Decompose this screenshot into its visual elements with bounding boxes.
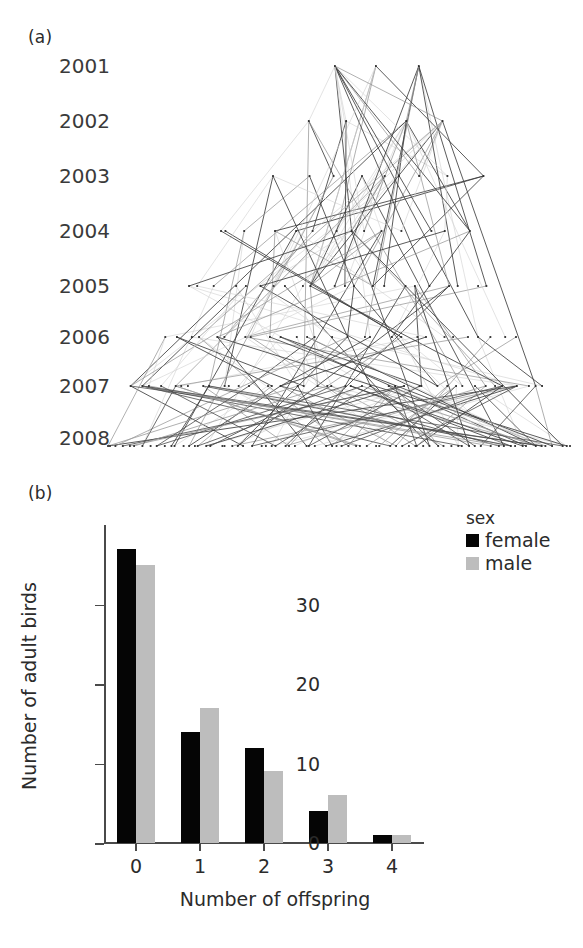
pedigree-network-svg bbox=[104, 60, 574, 452]
y-tick-0 bbox=[95, 843, 104, 845]
year-tick-2001: 2001 bbox=[59, 54, 110, 78]
network-node bbox=[442, 120, 444, 122]
legend-item-male[interactable]: male bbox=[466, 552, 551, 575]
network-node bbox=[416, 445, 418, 447]
network-node bbox=[525, 445, 527, 447]
network-node bbox=[498, 445, 500, 447]
network-node bbox=[130, 385, 132, 387]
network-node bbox=[446, 385, 448, 387]
network-node bbox=[510, 445, 512, 447]
x-tick-3 bbox=[327, 843, 329, 851]
network-node bbox=[231, 445, 233, 447]
network-node bbox=[383, 285, 385, 287]
network-edge bbox=[443, 121, 536, 386]
network-edge bbox=[142, 286, 246, 386]
network-node bbox=[150, 445, 152, 447]
network-node bbox=[260, 285, 262, 287]
network-node bbox=[194, 445, 196, 447]
y-tick-20 bbox=[95, 684, 104, 686]
network-node bbox=[225, 230, 227, 232]
network-node bbox=[228, 385, 230, 387]
network-node bbox=[451, 445, 453, 447]
x-tick-0 bbox=[135, 843, 137, 851]
network-node bbox=[541, 445, 543, 447]
network-node bbox=[401, 445, 403, 447]
network-node bbox=[224, 336, 226, 338]
network-node bbox=[437, 445, 439, 447]
network-edge bbox=[197, 176, 273, 286]
panel-b-barchart: (b) Number of adult birds Number of offs… bbox=[0, 470, 583, 948]
network-node bbox=[288, 445, 290, 447]
network-edge bbox=[131, 121, 407, 386]
network-edge bbox=[217, 231, 470, 337]
network-node bbox=[317, 385, 319, 387]
network-node bbox=[187, 385, 189, 387]
network-node bbox=[133, 445, 135, 447]
network-node bbox=[551, 445, 553, 447]
panel-a-label: (a) bbox=[28, 27, 52, 47]
network-node bbox=[174, 445, 176, 447]
bar-male-1[interactable] bbox=[200, 708, 219, 843]
network-node bbox=[361, 385, 363, 387]
network-node bbox=[309, 285, 311, 287]
network-edge bbox=[161, 386, 275, 446]
network-node bbox=[350, 385, 352, 387]
network-edge bbox=[313, 121, 443, 231]
year-tick-2007: 2007 bbox=[59, 374, 110, 398]
network-node bbox=[391, 336, 393, 338]
network-node bbox=[308, 445, 310, 447]
network-node bbox=[250, 336, 252, 338]
network-node bbox=[444, 230, 446, 232]
x-tick-label-3: 3 bbox=[322, 855, 334, 877]
x-tick-1 bbox=[199, 843, 201, 851]
legend-item-female[interactable]: female bbox=[466, 529, 551, 552]
network-node bbox=[461, 445, 463, 447]
bar-female-0[interactable] bbox=[117, 549, 136, 843]
bar-female-2[interactable] bbox=[245, 748, 264, 843]
network-edge bbox=[419, 66, 478, 337]
network-edge bbox=[221, 121, 309, 231]
network-node bbox=[469, 230, 471, 232]
network-node bbox=[422, 445, 424, 447]
network-edge bbox=[392, 231, 445, 337]
network-node bbox=[244, 336, 246, 338]
network-edge bbox=[224, 121, 442, 337]
network-edge bbox=[189, 286, 371, 386]
network-node bbox=[437, 385, 439, 387]
network-node bbox=[115, 445, 117, 447]
network-node bbox=[417, 336, 419, 338]
network-node bbox=[188, 285, 190, 287]
network-node bbox=[188, 445, 190, 447]
network-edge bbox=[251, 286, 487, 337]
network-edge bbox=[203, 386, 289, 446]
network-node bbox=[369, 336, 371, 338]
y-axis-line bbox=[104, 525, 106, 843]
network-node bbox=[285, 445, 287, 447]
network-node bbox=[183, 445, 185, 447]
network-node bbox=[501, 385, 503, 387]
network-node bbox=[366, 445, 368, 447]
network-node bbox=[180, 385, 182, 387]
network-node bbox=[562, 445, 564, 447]
network-node bbox=[269, 336, 271, 338]
bar-male-0[interactable] bbox=[136, 565, 155, 843]
network-node bbox=[398, 175, 400, 177]
bar-female-4[interactable] bbox=[373, 835, 392, 843]
network-node bbox=[222, 445, 224, 447]
year-tick-2006: 2006 bbox=[59, 325, 110, 349]
network-node bbox=[477, 336, 479, 338]
network-node bbox=[271, 445, 273, 447]
network-node bbox=[142, 445, 144, 447]
legend-label-female: female bbox=[485, 531, 551, 550]
network-node bbox=[381, 230, 383, 232]
network-node bbox=[274, 230, 276, 232]
network-edge bbox=[131, 231, 382, 386]
network-node bbox=[359, 445, 361, 447]
bar-male-3[interactable] bbox=[328, 795, 347, 843]
bar-female-1[interactable] bbox=[181, 732, 200, 843]
bar-male-2[interactable] bbox=[264, 771, 283, 843]
bar-male-4[interactable] bbox=[392, 835, 411, 843]
network-node bbox=[122, 445, 124, 447]
network-edge bbox=[310, 231, 381, 286]
network-node bbox=[457, 285, 459, 287]
